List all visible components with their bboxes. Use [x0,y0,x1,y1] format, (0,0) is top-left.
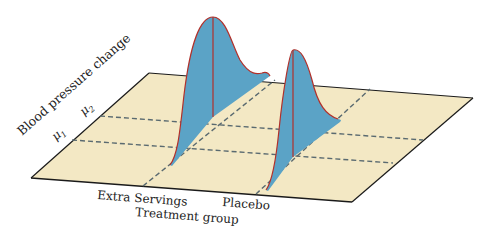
mu2-label: μ2 [77,99,97,120]
distribution-diagram: Blood pressure change μ2 μ1 Extra Servin… [0,0,488,236]
mu1-label: μ1 [49,124,69,145]
placebo-label: Placebo [222,195,271,213]
